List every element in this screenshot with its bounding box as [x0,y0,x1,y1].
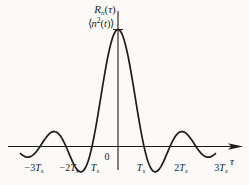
origin-label: 0 [105,152,110,162]
y-axis-label-symbol: R [94,3,101,15]
x-tick-minus-2Ts: −2Ts [60,163,79,175]
x-axis-symbol: τ [230,156,234,167]
x-tick-3Ts: 3Ts [214,163,227,175]
autocorrelation-figure: Rn(τ) ⟨n2(t)⟩ 0 −3Ts −2Ts Ts Ts 2Ts 3Ts … [0,0,249,185]
peak-value-label: ⟨n2(t)⟩ [88,17,115,30]
x-tick-Ts: Ts [137,163,145,175]
x-tick-minus-3Ts: −3Ts [25,163,44,175]
x-tick-2Ts: 2Ts [174,163,187,175]
x-tick-minus-Ts: Ts [91,163,99,175]
plot-canvas [0,0,249,185]
